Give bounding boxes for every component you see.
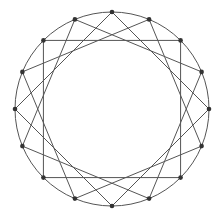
chord-line [112,109,209,206]
star-polygon-diagram [0,0,222,219]
vertex-point [73,196,78,201]
vertex-point [41,38,46,43]
chord-line [149,19,201,146]
vertex-point [178,175,183,180]
chord-line [112,12,209,109]
chord-line [75,146,202,198]
chord-line [149,72,201,199]
chord-line [15,12,112,109]
chord-line [22,146,149,198]
vertex-point [199,70,204,75]
chord-line [15,109,112,206]
chord-line [22,19,149,71]
vertex-point [147,17,152,22]
vertex-point [20,144,25,149]
vertex-points [13,10,212,209]
diagram-canvas [0,0,222,219]
vertex-point [20,70,25,75]
vertex-point [110,204,115,209]
vertex-point [41,175,46,180]
vertex-point [199,144,204,149]
vertex-point [178,38,183,43]
vertex-point [147,196,152,201]
vertex-point [110,10,115,15]
vertex-point [73,17,78,22]
chord-line [22,72,74,199]
chord-line [75,19,202,71]
vertex-point [207,107,212,112]
vertex-point [13,107,18,112]
chord-line [22,19,74,146]
